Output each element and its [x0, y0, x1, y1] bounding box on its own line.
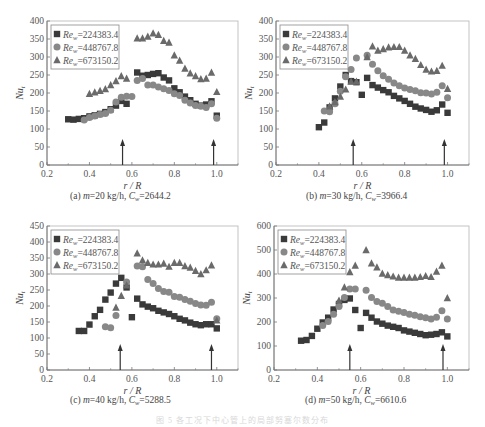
panel-caption-b: (b) m=30 kg/h, Cw=3966.4 — [306, 191, 407, 202]
y-tick-label: 200 — [257, 317, 272, 327]
triangle-marker — [368, 259, 375, 266]
chart-panel-d: 0.20.40.60.81.00100200300400500600r / RN… — [0, 0, 485, 427]
legend-entry: Rew=673150.2 — [289, 261, 346, 272]
x-tick-label: 0.8 — [398, 374, 410, 384]
triangle-marker — [384, 271, 391, 278]
circle-marker — [363, 287, 370, 294]
triangle-marker — [346, 268, 353, 275]
square-marker — [309, 333, 315, 339]
x-tick-label: 0.4 — [311, 374, 323, 384]
square-marker — [357, 325, 363, 331]
x-tick-label: 1.0 — [441, 374, 453, 384]
triangle-marker — [379, 270, 386, 277]
panel-caption-c: (c) m=40 kg/h, Cw=5288.5 — [70, 395, 171, 406]
panel-caption-a: (a) m=20 kg/h, Cw=2644.2 — [70, 191, 171, 202]
y-tick-label: 300 — [257, 293, 272, 303]
figure-caption: 图 5 各工况下中心管上的局部努塞尔数分布 — [0, 414, 485, 425]
triangle-marker — [422, 272, 429, 279]
circle-marker — [438, 307, 445, 314]
legend: Rew=224383.4Rew=448767.8Rew=673150.2 — [278, 230, 346, 274]
y-tick-label: 400 — [257, 269, 272, 279]
series-triangle — [335, 246, 451, 304]
circle-marker — [336, 303, 343, 310]
triangle-marker — [373, 263, 380, 270]
circle-marker — [330, 311, 337, 318]
circle-marker — [352, 285, 359, 292]
circle-marker — [341, 294, 348, 301]
panel-caption-d: (d) m=50 kg/h, Cw=6610.6 — [305, 395, 406, 406]
location-arrow — [441, 344, 446, 370]
legend-entry: Rew=448767.8 — [289, 248, 346, 259]
square-marker — [281, 236, 287, 242]
legend-entry: Rew=224383.4 — [289, 235, 346, 246]
y-tick-label: 100 — [257, 341, 272, 351]
square-marker — [444, 333, 450, 339]
triangle-marker — [444, 294, 451, 301]
triangle-marker — [341, 283, 348, 290]
circle-marker — [444, 315, 451, 322]
triangle-marker — [362, 246, 369, 253]
circle-marker — [433, 314, 440, 321]
y-tick-label: 600 — [257, 221, 272, 231]
y-tick-label: 0 — [266, 365, 271, 375]
x-tick-label: 0.2 — [268, 374, 280, 384]
x-tick-label: 0.6 — [355, 374, 367, 384]
triangle-marker — [389, 272, 396, 279]
location-arrow — [347, 344, 352, 370]
y-axis-title: Nut — [241, 290, 254, 306]
triangle-marker — [352, 262, 359, 269]
square-marker — [352, 307, 358, 313]
circle-marker — [325, 318, 332, 325]
y-tick-label: 500 — [257, 245, 272, 255]
triangle-marker — [438, 262, 445, 269]
circle-marker — [281, 249, 288, 256]
